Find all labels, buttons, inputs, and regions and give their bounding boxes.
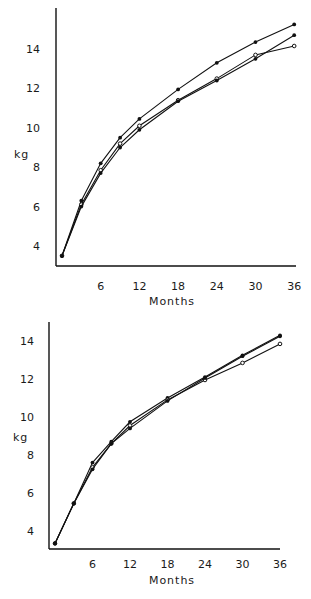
data-point-marker — [91, 461, 95, 465]
x-tick-label: 24 — [210, 280, 224, 293]
data-point-marker — [53, 542, 57, 546]
data-point-marker — [254, 40, 258, 44]
x-tick-label: 12 — [132, 280, 146, 293]
data-point-marker — [138, 124, 142, 128]
data-point-marker — [241, 354, 245, 358]
data-point-marker — [166, 399, 170, 403]
x-tick-label: 12 — [123, 558, 137, 571]
x-tick-label: 6 — [97, 280, 104, 293]
x-tick-label: 30 — [236, 558, 250, 571]
data-point-marker — [254, 57, 258, 61]
y-tick-label: 10 — [20, 411, 34, 424]
data-point-marker — [118, 146, 122, 150]
data-point-marker — [60, 254, 64, 258]
y-tick-label: 6 — [27, 487, 34, 500]
series-line-2 — [55, 344, 280, 544]
x-axis-title: Months — [149, 574, 195, 587]
x-tick-label: 6 — [89, 558, 96, 571]
y-tick-label: 14 — [26, 43, 40, 56]
data-point-marker — [176, 99, 180, 103]
data-point-marker — [241, 361, 245, 365]
y-tick-label: 8 — [27, 449, 34, 462]
data-point-marker — [254, 53, 258, 57]
data-point-marker — [278, 334, 282, 338]
data-point-marker — [128, 427, 132, 431]
data-point-marker — [292, 33, 296, 37]
y-tick-label: 8 — [33, 161, 40, 174]
x-tick-label: 18 — [171, 280, 185, 293]
data-point-marker — [278, 342, 282, 346]
x-axis-title: Months — [149, 295, 195, 308]
data-point-marker — [118, 142, 122, 146]
series-line-3 — [55, 336, 280, 543]
x-tick-label: 36 — [273, 558, 287, 571]
data-point-marker — [138, 117, 142, 121]
figure-canvas: 468101214 61218243036 kg Months 46810121… — [0, 0, 311, 599]
series-line-3 — [62, 35, 294, 256]
y-tick-label: 12 — [20, 373, 34, 386]
x-tick-label: 36 — [287, 280, 301, 293]
data-point-marker — [128, 420, 132, 424]
x-tick-labels: 61218243036 — [89, 558, 287, 571]
data-point-marker — [176, 88, 180, 92]
series-group — [53, 333, 282, 545]
data-point-marker — [118, 136, 122, 140]
x-tick-label: 24 — [198, 558, 212, 571]
x-tick-labels: 61218243036 — [97, 280, 301, 293]
data-point-marker — [203, 376, 207, 380]
bottom-weight-chart: 468101214 61218243036 kg Months — [13, 322, 287, 587]
y-tick-label: 12 — [26, 82, 40, 95]
y-axis-title: kg — [13, 431, 28, 444]
data-point-marker — [99, 161, 103, 165]
data-point-marker — [99, 171, 103, 175]
data-point-marker — [91, 467, 95, 471]
y-tick-label: 6 — [33, 201, 40, 214]
data-point-marker — [292, 44, 296, 48]
x-tick-label: 30 — [249, 280, 263, 293]
y-tick-label: 10 — [26, 122, 40, 135]
data-point-marker — [215, 79, 219, 83]
data-point-marker — [79, 205, 83, 209]
top-weight-chart: 468101214 61218243036 kg Months — [14, 8, 301, 308]
data-point-marker — [138, 128, 142, 132]
data-point-marker — [215, 61, 219, 65]
series-group — [60, 23, 296, 258]
data-point-marker — [292, 23, 296, 27]
series-line-1 — [62, 24, 294, 255]
y-axis-title: kg — [14, 148, 29, 161]
series-line-2 — [62, 46, 294, 256]
y-tick-label: 4 — [27, 525, 34, 538]
data-point-marker — [109, 442, 113, 446]
y-tick-label: 4 — [33, 240, 40, 253]
x-tick-label: 18 — [161, 558, 175, 571]
y-tick-label: 14 — [20, 335, 34, 348]
data-point-marker — [72, 502, 76, 506]
series-line-1 — [55, 335, 280, 543]
